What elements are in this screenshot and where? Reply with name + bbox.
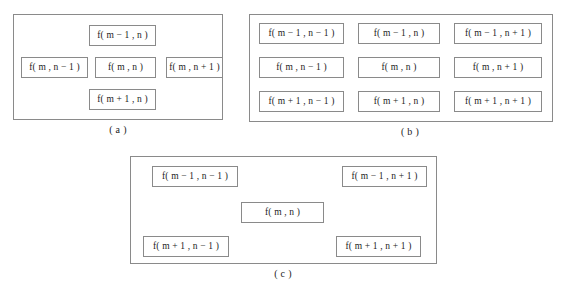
cell-formula: f( m , n + 1 ) xyxy=(473,63,523,73)
cell-formula: f( m − 1 , n − 1 ) xyxy=(162,172,228,182)
panel-c-caption: ( c ) xyxy=(233,268,333,279)
stencil-cell-b-row2-col2: f( m + 1 , n + 1 ) xyxy=(454,91,542,112)
cell-formula: f( m − 1 , n ) xyxy=(374,29,424,39)
stencil-cell-b-row0-col2: f( m − 1 , n + 1 ) xyxy=(454,23,542,44)
cell-formula: f( m + 1 , n − 1 ) xyxy=(269,97,335,107)
panel-a-cross-stencil: f( m − 1 , n ) f( m , n − 1 ) f( m , n )… xyxy=(13,14,223,120)
cell-formula: f( m + 1 , n ) xyxy=(374,97,424,107)
cell-formula: f( m + 1 , n ) xyxy=(97,95,147,105)
cell-formula: f( m + 1 , n − 1 ) xyxy=(153,242,219,252)
stencil-cell-b-row0-col1: f( m − 1 , n ) xyxy=(358,23,440,44)
cell-formula: f( m + 1 , n + 1 ) xyxy=(346,242,412,252)
figure-container: f( m − 1 , n ) f( m , n − 1 ) f( m , n )… xyxy=(0,0,567,292)
stencil-cell-c-center: f( m , n ) xyxy=(241,202,324,223)
stencil-cell-b-row1-col1: f( m , n ) xyxy=(358,57,440,78)
cell-formula: f( m − 1 , n − 1 ) xyxy=(269,29,335,39)
cell-formula: f( m − 1 , n + 1 ) xyxy=(465,29,531,39)
panel-b-full-stencil: f( m − 1 , n − 1 ) f( m − 1 , n ) f( m −… xyxy=(249,14,553,122)
cell-formula: f( m , n − 1 ) xyxy=(276,63,326,73)
cell-formula: f( m − 1 , n ) xyxy=(97,31,147,41)
stencil-cell-c-bottom-left: f( m + 1 , n − 1 ) xyxy=(143,236,229,257)
cell-formula: f( m , n ) xyxy=(265,208,300,218)
stencil-cell-c-top-left: f( m − 1 , n − 1 ) xyxy=(152,166,238,187)
cell-formula: f( m + 1 , n + 1 ) xyxy=(465,97,531,107)
stencil-cell-a-top: f( m − 1 , n ) xyxy=(89,25,156,46)
stencil-cell-b-row2-col0: f( m + 1 , n − 1 ) xyxy=(259,91,344,112)
stencil-cell-a-center: f( m , n ) xyxy=(95,57,156,78)
stencil-cell-b-row0-col0: f( m − 1 , n − 1 ) xyxy=(259,23,344,44)
stencil-cell-a-left: f( m , n − 1 ) xyxy=(21,57,88,78)
stencil-cell-a-bottom: f( m + 1 , n ) xyxy=(89,89,156,110)
panel-c-diagonal-stencil: f( m − 1 , n − 1 ) f( m − 1 , n + 1 ) f(… xyxy=(130,156,437,264)
stencil-cell-b-row1-col0: f( m , n − 1 ) xyxy=(259,57,344,78)
stencil-cell-b-row1-col2: f( m , n + 1 ) xyxy=(454,57,542,78)
panel-b-caption: ( b ) xyxy=(360,126,460,137)
panel-a-caption: ( a ) xyxy=(68,124,168,135)
stencil-cell-b-row2-col1: f( m + 1 , n ) xyxy=(358,91,440,112)
cell-formula: f( m , n − 1 ) xyxy=(29,63,79,73)
stencil-cell-c-bottom-right: f( m + 1 , n + 1 ) xyxy=(336,236,421,257)
cell-formula: f( m − 1 , n + 1 ) xyxy=(352,172,418,182)
cell-formula: f( m , n + 1 ) xyxy=(169,63,219,73)
stencil-cell-a-right: f( m , n + 1 ) xyxy=(166,57,223,78)
cell-formula: f( m , n ) xyxy=(108,63,143,73)
cell-formula: f( m , n ) xyxy=(381,63,416,73)
stencil-cell-c-top-right: f( m − 1 , n + 1 ) xyxy=(342,166,427,187)
